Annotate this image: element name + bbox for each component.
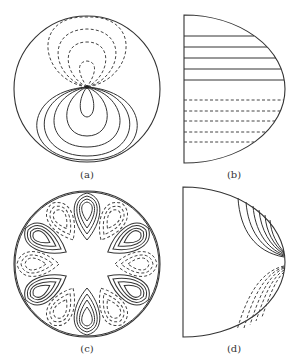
panel-a-caption: (a) (72, 169, 102, 180)
panel-a-contours (14, 16, 160, 162)
panel-d-contours (183, 187, 285, 337)
panel-b-contours (184, 15, 285, 163)
panel-a-plot (0, 0, 295, 363)
panel-d-caption: (d) (219, 343, 249, 354)
panel-b-caption: (b) (219, 169, 249, 180)
panel-c-contours (6, 191, 168, 337)
panel-c-caption: (c) (72, 343, 102, 354)
